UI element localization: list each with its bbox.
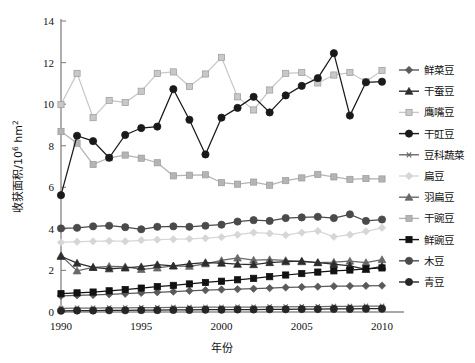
data-point-marker	[347, 267, 353, 273]
legend-item-10[interactable]: 青豆	[399, 276, 444, 288]
legend-label-5: 扁豆	[424, 170, 444, 182]
y-tick-label: 2	[49, 264, 55, 276]
data-point-marker	[122, 238, 129, 245]
data-point-marker	[202, 235, 209, 242]
data-point-marker	[105, 237, 112, 244]
data-point-marker	[406, 152, 412, 157]
data-point-marker	[362, 79, 369, 86]
data-point-marker	[218, 306, 225, 313]
data-point-marker	[362, 217, 369, 224]
data-point-marker	[73, 238, 80, 245]
legend-label-1: 干蚕豆	[424, 85, 454, 97]
legend-label-2: 鹰嘴豆	[424, 106, 454, 118]
data-point-marker	[138, 226, 145, 233]
legend-item-0[interactable]: 鲜菜豆	[399, 64, 454, 76]
data-point-marker	[347, 69, 353, 75]
y-tick-label: 14	[43, 15, 55, 27]
data-point-marker	[298, 229, 305, 236]
legend-item-4[interactable]: 豆科蔬菜	[399, 149, 465, 161]
data-point-marker	[250, 306, 257, 313]
data-point-marker	[331, 268, 337, 274]
data-point-marker	[315, 269, 321, 275]
y-tick-label: 6	[49, 181, 55, 193]
data-point-marker	[74, 70, 80, 76]
data-point-marker	[330, 214, 337, 221]
data-point-marker	[234, 218, 241, 225]
data-point-marker	[73, 224, 80, 231]
data-point-marker	[122, 131, 129, 138]
data-point-marker	[57, 239, 64, 246]
data-point-marker	[378, 216, 385, 223]
legend-item-9[interactable]: 木豆	[399, 255, 444, 267]
data-point-marker	[154, 160, 160, 166]
x-tick-label: 1990	[50, 320, 73, 332]
legend-item-5[interactable]: 扁豆	[399, 170, 444, 182]
legend-item-7[interactable]: 干豌豆	[399, 212, 454, 224]
data-point-marker	[266, 284, 273, 291]
y-tick-label: 4	[49, 223, 55, 235]
data-point-marker	[406, 215, 412, 221]
x-tick-label: 2000	[211, 320, 234, 332]
data-point-marker	[170, 173, 176, 179]
data-point-marker	[266, 217, 273, 224]
data-point-marker	[202, 151, 209, 158]
legend-item-8[interactable]: 鲜豌豆	[399, 234, 454, 246]
data-point-marker	[378, 224, 385, 231]
data-point-marker	[251, 179, 257, 185]
data-point-marker	[73, 259, 81, 266]
data-point-marker	[314, 213, 321, 220]
legend-label-8: 鲜豌豆	[424, 234, 454, 246]
data-point-marker	[138, 155, 144, 161]
data-point-marker	[298, 214, 305, 221]
y-tick-label: 0	[49, 306, 55, 318]
data-point-marker	[170, 69, 176, 75]
data-point-marker	[138, 285, 144, 291]
x-tick-label: 2010	[371, 320, 394, 332]
legend-item-6[interactable]: 羽扁豆	[399, 191, 454, 203]
data-point-marker	[218, 233, 225, 240]
data-point-marker	[299, 175, 305, 181]
data-point-marker	[57, 192, 64, 199]
series-9	[57, 211, 385, 233]
legend-item-3[interactable]: 干豇豆	[399, 128, 454, 140]
data-point-marker	[57, 307, 64, 314]
data-point-marker	[170, 236, 177, 243]
legend-label-7: 干豌豆	[424, 212, 454, 224]
data-point-marker	[58, 291, 64, 297]
data-point-marker	[346, 211, 353, 218]
svg-text:收获面积/106 hm2: 收获面积/106 hm2	[11, 120, 25, 213]
data-point-marker	[90, 223, 97, 230]
data-point-marker	[106, 307, 113, 314]
data-point-marker	[90, 115, 96, 121]
data-point-marker	[90, 161, 96, 167]
data-point-marker	[154, 307, 161, 314]
data-point-marker	[73, 132, 80, 139]
data-point-marker	[58, 101, 64, 107]
data-point-marker	[170, 306, 177, 313]
legend-item-2[interactable]: 鹰嘴豆	[399, 106, 454, 118]
data-point-marker	[346, 282, 353, 289]
data-point-marker	[154, 123, 161, 130]
data-point-marker	[406, 109, 412, 115]
data-point-marker	[138, 237, 145, 244]
data-point-marker	[379, 176, 385, 182]
data-point-marker	[122, 224, 129, 231]
data-point-marker	[330, 305, 337, 312]
data-point-marker	[405, 130, 412, 137]
y-tick-label: 8	[49, 140, 55, 152]
legend-label-10: 青豆	[424, 276, 444, 288]
data-point-marker	[234, 285, 241, 292]
data-point-marker	[234, 306, 241, 313]
data-point-marker	[186, 223, 193, 230]
data-point-marker	[330, 233, 337, 240]
data-point-marker	[378, 282, 385, 289]
legend-item-1[interactable]: 干蚕豆	[399, 85, 454, 97]
data-point-marker	[138, 307, 145, 314]
data-point-marker	[282, 92, 289, 99]
data-point-marker	[282, 284, 289, 291]
data-point-marker	[218, 286, 225, 293]
data-point-marker	[378, 305, 385, 312]
legend: 鲜菜豆干蚕豆鹰嘴豆干豇豆豆科蔬菜扁豆羽扁豆干豌豆鲜豌豆木豆青豆	[399, 64, 465, 288]
data-point-marker	[314, 75, 321, 82]
data-point-marker	[202, 172, 208, 178]
